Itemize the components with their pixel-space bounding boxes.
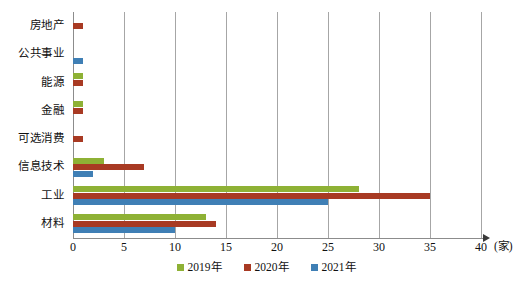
- bar-工业-2020年: [73, 193, 430, 199]
- legend-swatch-icon: [177, 264, 184, 271]
- x-axis-tick-labels: 0510152025303540: [0, 241, 532, 259]
- bar-房地产-2020年: [73, 23, 83, 29]
- x-tick-25: 25: [322, 241, 334, 253]
- legend-swatch-icon: [311, 264, 318, 271]
- category-label-fangdichan: 房地产: [30, 20, 64, 32]
- bar-信息技术-2021年: [73, 171, 93, 177]
- bars-layer: [73, 12, 481, 238]
- x-tick-0: 0: [70, 241, 76, 253]
- category-axis-labels: 房地产 公共事业 能源 金融 可选消费 信息技术 工业 材料: [0, 12, 68, 238]
- category-label-nengyuan: 能源: [41, 77, 64, 89]
- bar-group: [73, 69, 481, 97]
- bar-group: [73, 210, 481, 238]
- x-axis-line: [73, 238, 485, 239]
- category-label-kexuanxiaofei: 可选消费: [18, 133, 64, 145]
- bar-公共事业-2021年: [73, 58, 83, 64]
- plot-area: [73, 12, 481, 238]
- x-axis-unit-label: (家): [494, 241, 513, 253]
- bar-group: [73, 182, 481, 210]
- category-label-xinxijishu: 信息技术: [18, 161, 64, 173]
- bar-group: [73, 40, 481, 68]
- bar-group: [73, 12, 481, 40]
- bar-材料-2020年: [73, 221, 216, 227]
- bar-能源-2020年: [73, 80, 83, 86]
- legend-label: 2019年: [188, 262, 222, 274]
- bar-信息技术-2019年: [73, 158, 104, 164]
- bar-chart: 房地产 公共事业 能源 金融 可选消费 信息技术 工业 材料 051015202…: [0, 0, 532, 287]
- bar-工业-2019年: [73, 186, 359, 192]
- bar-group: [73, 125, 481, 153]
- x-tick-30: 30: [373, 241, 385, 253]
- x-tick-15: 15: [220, 241, 232, 253]
- x-tick-10: 10: [169, 241, 181, 253]
- bar-金融-2019年: [73, 101, 83, 107]
- legend-item-2019年[interactable]: 2019年: [177, 262, 222, 274]
- category-label-gongye: 工业: [41, 190, 64, 202]
- legend-item-2021年[interactable]: 2021年: [311, 262, 356, 274]
- gridline-40: [481, 12, 482, 238]
- category-label-jinrong: 金融: [41, 105, 64, 117]
- bar-工业-2021年: [73, 199, 328, 205]
- bar-信息技术-2020年: [73, 164, 144, 170]
- category-label-gonggongshiye: 公共事业: [18, 48, 64, 60]
- bar-group: [73, 97, 481, 125]
- legend-label: 2021年: [322, 262, 356, 274]
- legend-swatch-icon: [244, 264, 251, 271]
- x-tick-5: 5: [121, 241, 127, 253]
- x-tick-35: 35: [424, 241, 436, 253]
- bar-金融-2020年: [73, 108, 83, 114]
- bar-group: [73, 153, 481, 181]
- legend-item-2020年[interactable]: 2020年: [244, 262, 289, 274]
- bar-能源-2019年: [73, 73, 83, 79]
- bar-可选消费-2020年: [73, 136, 83, 142]
- bar-材料-2021年: [73, 227, 175, 233]
- bar-材料-2019年: [73, 214, 206, 220]
- x-tick-40: 40: [475, 241, 487, 253]
- chart-legend: 2019年2020年2021年: [0, 262, 532, 274]
- legend-label: 2020年: [255, 262, 289, 274]
- category-label-cailiao: 材料: [41, 218, 64, 230]
- x-tick-20: 20: [271, 241, 283, 253]
